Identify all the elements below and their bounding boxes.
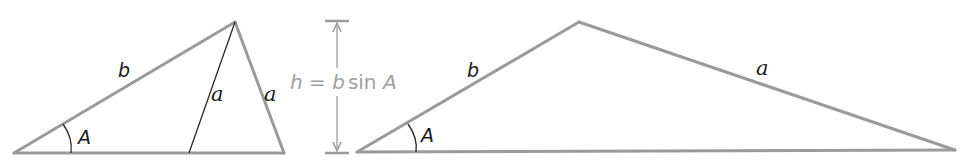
right-side-b-label: b <box>467 59 479 81</box>
right-triangle-figure: b a A <box>357 22 955 152</box>
right-base-edge <box>357 150 955 152</box>
left-side-b-label: b <box>118 59 130 81</box>
ssa-diagram: b a a A h = bsin A b a A <box>0 0 965 167</box>
left-angle-a-arc <box>63 124 71 153</box>
left-side-b-edge <box>14 22 235 153</box>
left-outer-side-a-edge <box>235 22 284 153</box>
left-inner-side-a-label: a <box>211 82 224 106</box>
left-angle-a-label: A <box>76 126 91 148</box>
left-triangle-figure: b a a A <box>14 22 284 153</box>
left-outer-side-a-label: a <box>264 82 277 106</box>
height-indicator: h = bsin A <box>290 21 397 153</box>
right-side-a-label: a <box>756 56 769 80</box>
height-formula: h = bsin A <box>290 70 397 94</box>
right-side-a-edge <box>579 22 955 150</box>
right-angle-a-label: A <box>419 124 434 146</box>
right-angle-a-arc <box>408 124 416 152</box>
